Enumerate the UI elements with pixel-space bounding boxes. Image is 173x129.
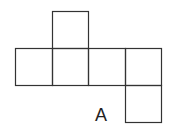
square-top: [53, 12, 89, 49]
square-row-1: [16, 49, 53, 86]
square-row-4: [126, 49, 162, 86]
label-a: A: [95, 106, 107, 124]
square-row-2: [53, 49, 89, 86]
square-row-3: [89, 49, 126, 86]
square-bottom: [126, 86, 162, 123]
cube-net-diagram: [0, 0, 173, 129]
